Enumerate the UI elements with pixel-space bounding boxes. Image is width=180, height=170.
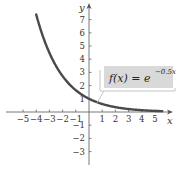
exponential-decay-chart: x y −5−4−3−2−112345−3−2−11234567 f(x) = … — [0, 0, 180, 170]
y-tick-label: −1 — [72, 120, 85, 130]
y-tick-label: −2 — [72, 133, 85, 143]
x-axis-label: x — [167, 115, 173, 126]
y-tick-label: 4 — [80, 54, 85, 64]
x-tick-label: 2 — [113, 114, 118, 124]
exp-decay-line — [36, 14, 162, 111]
x-tick-label: 4 — [139, 114, 144, 124]
y-axis-label: y — [78, 2, 85, 13]
y-tick-label: 3 — [80, 67, 85, 77]
y-tick-label: 5 — [80, 41, 85, 51]
x-tick-label: 1 — [99, 114, 104, 124]
x-tick-label: −4 — [30, 114, 43, 124]
annotation-leader — [97, 91, 104, 103]
y-tick-label: −3 — [72, 147, 85, 157]
function-curve — [36, 14, 162, 111]
x-tick-label: 5 — [152, 114, 157, 124]
y-tick-label: 6 — [80, 28, 85, 38]
function-label-main: f(x) = e — [108, 72, 151, 85]
function-annotation: f(x) = e −0.5x — [97, 66, 176, 103]
y-tick-label: 7 — [80, 15, 85, 25]
x-tick-label: −3 — [43, 114, 56, 124]
x-tick-label: −5 — [17, 114, 30, 124]
function-label: f(x) = e — [108, 72, 151, 85]
x-tick-label: −2 — [56, 114, 69, 124]
function-label-exponent: −0.5x — [155, 68, 176, 76]
y-tick-label: 2 — [80, 81, 85, 91]
x-tick-label: 3 — [126, 114, 131, 124]
